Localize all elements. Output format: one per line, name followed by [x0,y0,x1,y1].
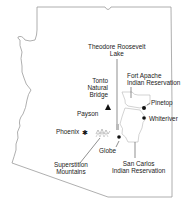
phoenix-label: Phoenix [56,128,79,135]
pinetop-marker[interactable] [142,106,146,110]
fort-apache-boundary [122,92,150,108]
san-carlos-label: San Carlos Indian Reservation [112,160,165,174]
globe-marker[interactable] [117,135,121,139]
tonto-bridge-label: Tonto Natural Bridge [82,77,108,99]
roosevelt-lake-label: Theodore Roosevelt Lake [88,43,146,57]
payson-label: Payson [77,110,98,117]
fort-apache-label: Fort Apache Indian Reservation [127,72,180,86]
san-carlos-boundary [120,108,146,142]
whiteriver-marker[interactable] [142,116,146,120]
phoenix-marker[interactable]: ✱ [82,129,88,137]
tonto-bridge-marker[interactable] [105,104,111,110]
superstition-label: Superstition Mountains [54,161,88,175]
roosevelt-lake-icon [116,124,119,130]
whiteriver-label: Whiteriver [149,115,178,122]
pinetop-label: Pinetop [151,99,173,106]
globe-label: Globe [99,147,116,154]
